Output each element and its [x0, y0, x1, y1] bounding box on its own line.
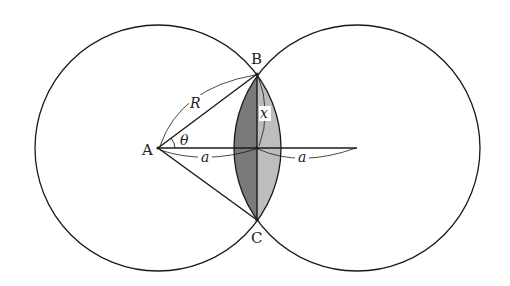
half-chord-label: x	[260, 105, 268, 121]
intersecting-circles-diagram: R θ x a a A B C	[0, 0, 510, 286]
angle-arc	[171, 138, 175, 148]
radius-label: R	[189, 95, 201, 111]
point-c-dot	[255, 218, 258, 221]
point-b-label: B	[251, 50, 262, 68]
point-a-label: A	[141, 141, 153, 159]
midpoint-dot	[256, 147, 259, 150]
angle-label: θ	[180, 132, 189, 148]
point-c-label: C	[251, 229, 262, 247]
distance-left-label: a	[201, 149, 209, 165]
distance-right-label: a	[298, 149, 306, 165]
point-b-dot	[255, 72, 258, 75]
point-a-dot	[156, 146, 159, 149]
